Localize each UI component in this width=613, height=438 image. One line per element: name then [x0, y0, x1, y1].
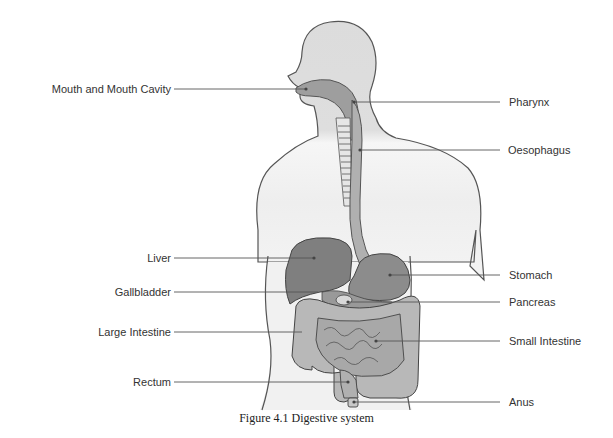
- label-mouth-cavity: Mouth and Mouth Cavity: [52, 83, 171, 95]
- label-pancreas: Pancreas: [509, 296, 555, 308]
- gallbladder: [336, 295, 352, 305]
- label-small-intestine: Small Intestine: [509, 335, 581, 347]
- label-anus: Anus: [509, 396, 534, 408]
- label-rectum: Rectum: [133, 376, 171, 388]
- digestive-system-illustration: [0, 0, 613, 438]
- label-large-intestine: Large Intestine: [98, 326, 171, 338]
- label-liver: Liver: [147, 252, 171, 264]
- figure-caption: Figure 4.1 Digestive system: [0, 411, 613, 426]
- label-oesophagus: Oesophagus: [508, 144, 570, 156]
- label-stomach: Stomach: [509, 269, 552, 281]
- label-pharynx: Pharynx: [509, 96, 549, 108]
- body-silhouette: [257, 21, 484, 280]
- label-gallbladder: Gallbladder: [115, 286, 171, 298]
